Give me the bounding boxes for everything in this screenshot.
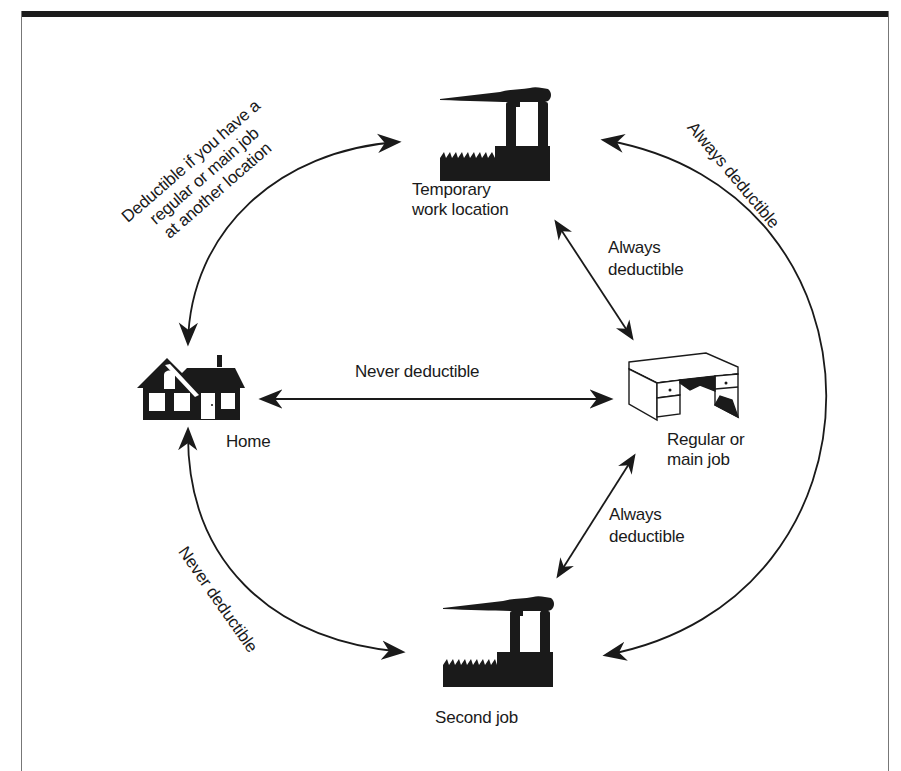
factory-icon <box>443 596 554 687</box>
node-label-temporary-line1: Temporary <box>412 180 491 200</box>
node-label-second-job: Second job <box>435 708 518 728</box>
house-icon <box>137 355 245 420</box>
edge-label-main-second-line1: Always <box>609 505 662 525</box>
factory-icon <box>440 87 551 181</box>
node-label-main-job-line2: main job <box>667 450 730 470</box>
edge-label-temporary-main-line2: deductible <box>608 260 684 280</box>
node-label-home: Home <box>226 432 271 452</box>
edge-label-home-main: Never deductible <box>355 362 479 382</box>
edge-label-temporary-main-line1: Always <box>608 238 661 258</box>
node-label-main-job-line1: Regular or <box>667 430 744 450</box>
desk-icon <box>629 353 738 420</box>
node-label-temporary-line2: work location <box>412 200 509 220</box>
edge-label-main-second-line2: deductible <box>609 527 685 547</box>
